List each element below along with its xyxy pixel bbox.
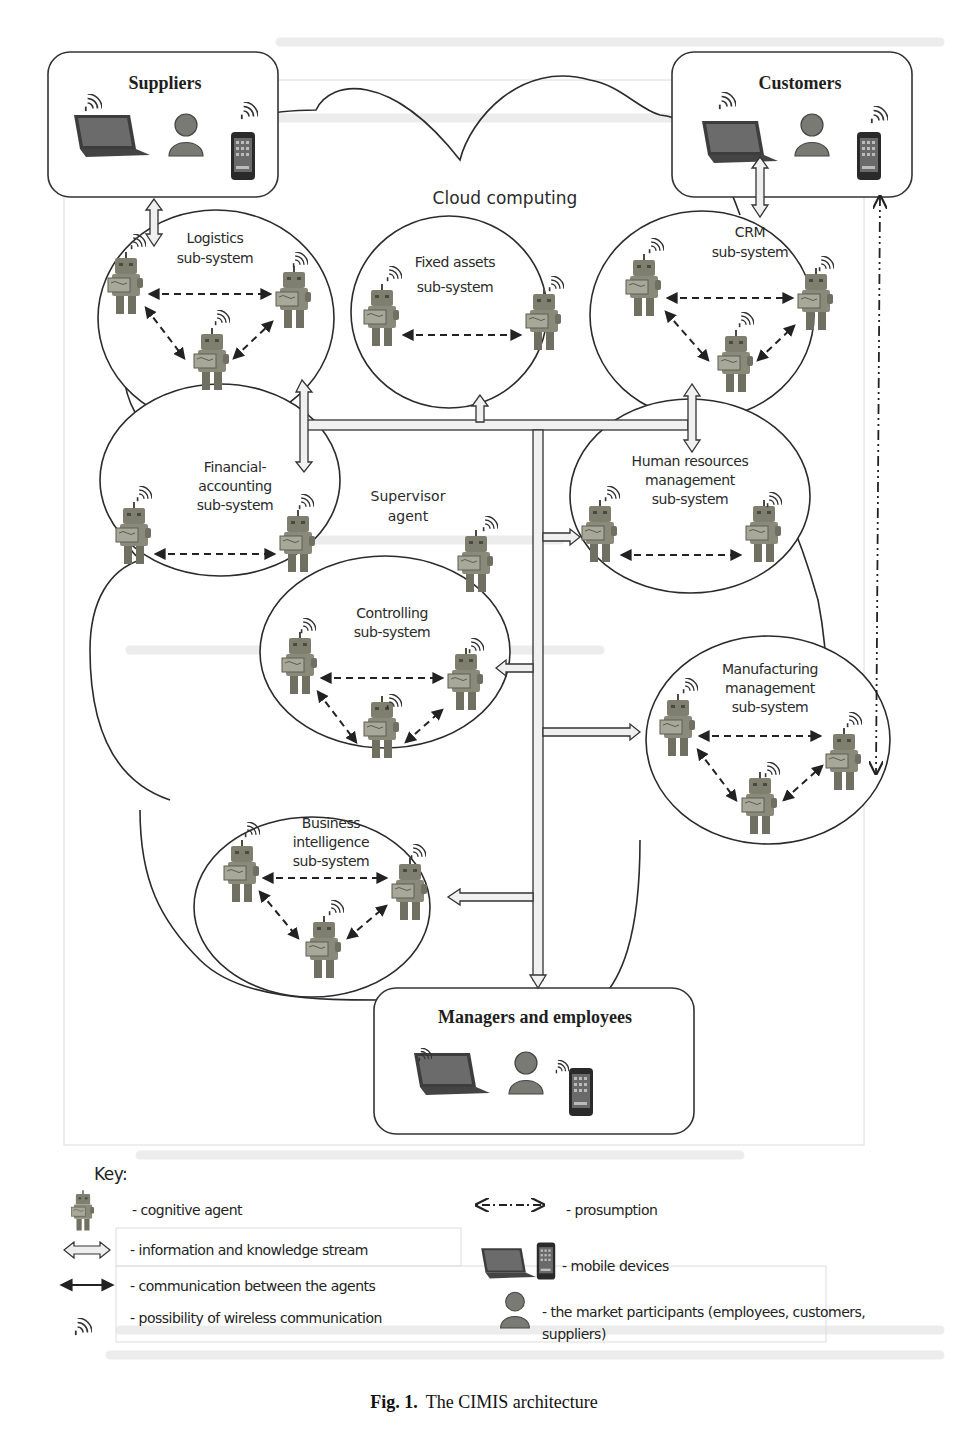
- prosumption-line: [876, 196, 880, 774]
- label-line: Business: [266, 814, 396, 833]
- key-line: suppliers): [542, 1324, 865, 1346]
- label-line: sub-system: [690, 242, 810, 262]
- label-line: Financial-: [170, 458, 300, 477]
- key-item-wireless: - possibility of wireless communication: [130, 1310, 382, 1326]
- supervisor-line1: Supervisor: [348, 486, 468, 506]
- label-line: sub-system: [266, 852, 396, 871]
- key-item-market-participants: - the market participants (employees, cu…: [542, 1302, 865, 1345]
- key-robot-icon: [71, 1190, 94, 1230]
- subsystem-label-fixed-assets: Fixed assets sub-system: [390, 250, 520, 299]
- label-line: sub-system: [322, 623, 462, 642]
- figure-caption: Fig. 1.The CIMIS architecture: [0, 1392, 968, 1413]
- key-title: Key:: [94, 1164, 127, 1184]
- subsystem-label-business-intelligence: Business intelligence sub-system: [266, 814, 396, 871]
- label-line: sub-system: [150, 248, 280, 268]
- label-line: management: [615, 471, 765, 490]
- caption-text: The CIMIS architecture: [426, 1392, 598, 1412]
- key-item-agent-communication: - communication between the agents: [130, 1278, 375, 1294]
- key-item-cognitive-agent: - cognitive agent: [132, 1202, 242, 1218]
- key-item-prosumption: - prosumption: [566, 1202, 657, 1218]
- label-line: sub-system: [170, 496, 300, 515]
- key-item-mobile-devices: - mobile devices: [562, 1258, 669, 1274]
- cloud-computing-label: Cloud computing: [410, 186, 600, 211]
- label-line: sub-system: [700, 698, 840, 717]
- managers-title: Managers and employees: [380, 1004, 690, 1030]
- label-line: CRM: [690, 222, 810, 242]
- cimis-architecture-diagram: [0, 0, 968, 1436]
- label-line: management: [700, 679, 840, 698]
- label-line: Human resources: [615, 452, 765, 471]
- subsystem-label-crm: CRM sub-system: [690, 222, 810, 263]
- subsystem-label-hr: Human resources management sub-system: [615, 452, 765, 509]
- label-line: intelligence: [266, 833, 396, 852]
- subsystem-label-controlling: Controlling sub-system: [322, 604, 462, 642]
- customers-title: Customers: [735, 70, 865, 96]
- label-line: Fixed assets: [390, 250, 520, 275]
- subsystem-label-manufacturing: Manufacturing management sub-system: [700, 660, 840, 717]
- label-line: accounting: [170, 477, 300, 496]
- subsystem-label-financial: Financial- accounting sub-system: [170, 458, 300, 515]
- key-item-information-stream: - information and knowledge stream: [130, 1242, 368, 1258]
- supervisor-agent-label: Supervisor agent: [348, 486, 468, 527]
- caption-number: Fig. 1.: [370, 1392, 418, 1412]
- label-line: Logistics: [150, 228, 280, 248]
- label-line: Manufacturing: [700, 660, 840, 679]
- key-line: - the market participants (employees, cu…: [542, 1302, 865, 1324]
- supervisor-line2: agent: [348, 506, 468, 526]
- subsystem-label-logistics: Logistics sub-system: [150, 228, 280, 269]
- label-line: sub-system: [615, 490, 765, 509]
- subsystem-ellipses: [98, 210, 890, 997]
- label-line: Controlling: [322, 604, 462, 623]
- label-line: sub-system: [390, 275, 520, 300]
- suppliers-title: Suppliers: [110, 70, 220, 96]
